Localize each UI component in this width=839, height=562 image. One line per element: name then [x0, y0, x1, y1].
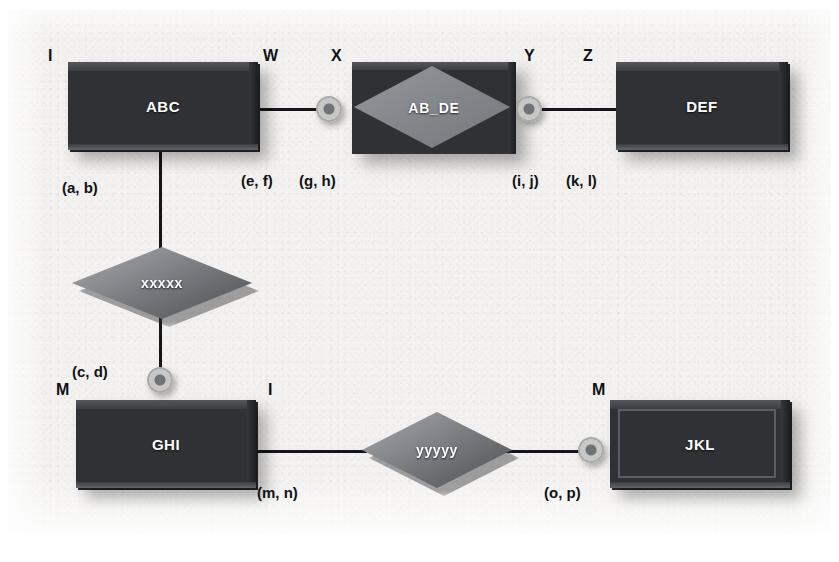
participation-op: (o, p)	[544, 484, 581, 501]
entity-abc-label: ABC	[68, 62, 258, 150]
entity-abc[interactable]: ABC	[68, 62, 258, 150]
entity-jkl[interactable]: JKL	[610, 400, 790, 488]
participation-ab: (a, b)	[62, 179, 98, 196]
connector-ring-abc-abde[interactable]	[316, 96, 342, 122]
participation-ij: (i, j)	[512, 172, 539, 189]
xxxxx-label: xxxxx	[72, 247, 252, 319]
abde-label: AB_DE	[352, 62, 516, 154]
cardinality-abde-right: Y	[524, 47, 535, 65]
participation-cd: (c, d)	[72, 363, 108, 380]
entity-ghi-label: GHI	[76, 400, 256, 488]
cardinality-def-left: Z	[583, 47, 593, 65]
cardinality-ghi-right: I	[268, 381, 272, 399]
participation-mn: (m, n)	[257, 484, 298, 501]
participation-gh: (g, h)	[299, 172, 336, 189]
entity-jkl-label: JKL	[610, 400, 790, 488]
cardinality-ghi-left: M	[56, 381, 69, 399]
yyyyy-label: yyyyy	[362, 412, 512, 488]
edge-ghi-to-yyyyy	[255, 450, 367, 453]
connector-ring-abde-def[interactable]	[516, 96, 542, 122]
edge-abde-to-def	[530, 108, 618, 111]
cardinality-abde-left: X	[331, 47, 342, 65]
entity-def-label: DEF	[616, 62, 788, 150]
er-diagram-canvas: ABC DEF GHI JKL AB_DE xxxxx	[0, 0, 839, 562]
relationship-yyyyy[interactable]: yyyyy	[362, 412, 512, 488]
participation-kl: (k, l)	[566, 172, 597, 189]
relationship-xxxxx[interactable]: xxxxx	[72, 247, 252, 319]
entity-ghi[interactable]: GHI	[76, 400, 256, 488]
cardinality-abc-left: I	[48, 47, 52, 65]
edge-abc-to-xxxxx	[159, 148, 162, 250]
connector-ring-yyyyy-jkl[interactable]	[578, 437, 604, 463]
connector-ring-xxxxx-ghi[interactable]	[147, 367, 173, 393]
cardinality-jkl-left: M	[592, 381, 605, 399]
cardinality-abc-right: W	[263, 47, 278, 65]
associative-entity-abde[interactable]: AB_DE	[352, 62, 516, 154]
participation-ef: (e, f)	[241, 172, 273, 189]
entity-def[interactable]: DEF	[616, 62, 788, 150]
